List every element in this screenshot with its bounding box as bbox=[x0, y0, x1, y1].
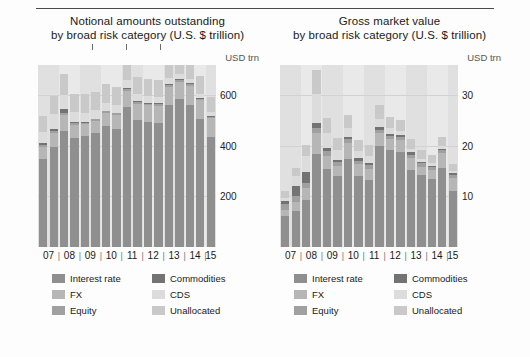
y-tick-label: 400 bbox=[220, 140, 237, 151]
stacked-bar bbox=[133, 77, 141, 247]
bar-segment bbox=[438, 137, 446, 146]
bar-series-layer bbox=[280, 65, 458, 247]
legend-gross: Interest rateCommoditiesFXCDSEquityUnall… bbox=[294, 273, 490, 331]
legend-item: Commodities bbox=[394, 273, 467, 284]
stacked-bar bbox=[302, 145, 310, 247]
bar-segment bbox=[50, 147, 58, 247]
panel-notional-amounts: Notional amounts outstanding by broad ri… bbox=[30, 14, 265, 344]
stacked-bar bbox=[39, 116, 47, 247]
bar-segment bbox=[133, 77, 141, 94]
panel-left-plot-wrap: 200400600 bbox=[30, 65, 265, 247]
stacked-bar bbox=[428, 155, 436, 247]
x-tick-label: 09 bbox=[327, 250, 338, 261]
x-tick-separator: | bbox=[404, 251, 406, 261]
bar-segment bbox=[396, 120, 404, 131]
stacked-bar bbox=[449, 164, 457, 247]
legend-label: Commodities bbox=[412, 273, 467, 284]
legend-label: Interest rate bbox=[312, 273, 363, 284]
x-tick-label: 14 bbox=[431, 250, 442, 261]
x-tick-label: 13 bbox=[169, 250, 180, 261]
stacked-bar bbox=[344, 115, 352, 247]
bar-segment bbox=[50, 96, 58, 114]
bar-segment bbox=[70, 125, 78, 138]
bar-segment bbox=[354, 176, 362, 247]
bar-segment bbox=[196, 119, 204, 247]
bar-segment bbox=[196, 100, 204, 119]
bar-segment bbox=[186, 86, 194, 105]
stacked-bar bbox=[407, 139, 415, 247]
bar-segment bbox=[375, 146, 383, 247]
panel-title-left: Notional amounts outstanding by broad ri… bbox=[30, 14, 265, 42]
bar-segment bbox=[112, 115, 120, 130]
bar-segment bbox=[438, 153, 446, 168]
bar-segment bbox=[292, 168, 300, 176]
bar-segment bbox=[365, 169, 373, 181]
chart-plot-notional bbox=[38, 65, 216, 247]
x-tick-label: 13 bbox=[411, 250, 422, 261]
bar-segment bbox=[449, 178, 457, 191]
bar-segment bbox=[123, 107, 131, 247]
stacked-bar bbox=[112, 87, 120, 247]
legend-swatch bbox=[294, 274, 307, 283]
panel-right-plot-wrap: 102030 bbox=[272, 65, 507, 247]
bar-segment bbox=[428, 170, 436, 179]
stacked-bar bbox=[365, 145, 373, 247]
bar-segment bbox=[60, 74, 68, 94]
bar-segment bbox=[312, 133, 320, 154]
panel-left-unit-label: USD trn bbox=[30, 52, 265, 64]
x-tick-separator: | bbox=[384, 251, 386, 261]
bar-segment bbox=[449, 164, 457, 171]
bar-segment bbox=[375, 119, 383, 127]
bar-segment bbox=[407, 139, 415, 149]
bar-segment bbox=[417, 167, 425, 176]
x-tick-label: 12 bbox=[390, 250, 401, 261]
bar-segment bbox=[312, 70, 320, 94]
figure-page: Notional amounts outstanding by broad ri… bbox=[0, 0, 530, 357]
bar-segment bbox=[312, 94, 320, 123]
bar-segment bbox=[175, 82, 183, 100]
stacked-bar bbox=[102, 84, 110, 247]
panel-title-left-line2: by broad risk category (U.S. $ trillion) bbox=[30, 28, 265, 42]
bar-segment bbox=[60, 131, 68, 247]
legend-swatch bbox=[294, 306, 307, 315]
bar-segment bbox=[323, 169, 331, 247]
x-tick-label: 11 bbox=[127, 250, 137, 261]
bar-segment bbox=[386, 150, 394, 247]
bar-segment bbox=[354, 151, 362, 158]
bar-segment bbox=[70, 94, 78, 112]
bar-segment bbox=[292, 186, 300, 196]
legend-item: Interest rate bbox=[294, 273, 363, 284]
y-tick-label: 30 bbox=[462, 90, 473, 101]
bar-segment bbox=[302, 172, 310, 183]
stacked-bar bbox=[323, 118, 331, 247]
bar-segment bbox=[333, 166, 341, 177]
stacked-bar bbox=[186, 65, 194, 247]
bar-segment bbox=[292, 211, 300, 247]
x-tick-label: 11 bbox=[369, 250, 379, 261]
bar-segment bbox=[344, 115, 352, 129]
x-tick-label: 10 bbox=[106, 250, 117, 261]
x-tick-label: 10 bbox=[348, 250, 359, 261]
chart-plot-gross bbox=[280, 65, 458, 247]
bar-segment bbox=[70, 138, 78, 247]
x-tick-separator: | bbox=[363, 251, 365, 261]
bar-segment bbox=[323, 118, 331, 134]
bar-segment bbox=[428, 155, 436, 163]
bar-segment bbox=[354, 164, 362, 177]
stacked-bar bbox=[50, 96, 58, 247]
x-tick-label: 07 bbox=[285, 250, 296, 261]
panel-title-right-line1: Gross market value bbox=[339, 15, 441, 27]
bar-segment bbox=[39, 147, 47, 159]
panel-title-right: Gross market value by broad risk categor… bbox=[272, 14, 507, 42]
bar-segment bbox=[386, 139, 394, 150]
bar-segment bbox=[102, 113, 110, 126]
legend-swatch bbox=[52, 306, 65, 315]
panel-right-unit-label: USD trn bbox=[272, 52, 507, 64]
legend-item: CDS bbox=[394, 289, 432, 300]
y-tick-label: 10 bbox=[462, 191, 473, 202]
legend-swatch bbox=[52, 290, 65, 299]
stacked-bar bbox=[333, 138, 341, 247]
bar-segment bbox=[50, 114, 58, 129]
y-axis-notional: 200400600 bbox=[220, 65, 262, 247]
bar-segment bbox=[344, 159, 352, 247]
